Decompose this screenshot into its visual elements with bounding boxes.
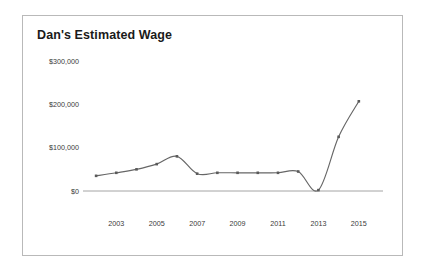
chart-card: Dan's Estimated Wage $0$100,000$200,000$… (22, 15, 403, 256)
y-tick-label: $100,000 (49, 143, 79, 152)
line-chart: $0$100,000$200,000$300,000 2003200520072… (23, 16, 404, 257)
x-tick-label: 2005 (149, 219, 165, 228)
data-point-marker (297, 170, 300, 173)
series-markers (95, 100, 360, 191)
data-point-marker (256, 172, 259, 175)
y-axis-tick-labels: $0$100,000$200,000$300,000 (49, 57, 79, 196)
y-tick-label: $0 (71, 187, 79, 196)
x-tick-label: 2007 (189, 219, 205, 228)
x-tick-label: 2015 (351, 219, 367, 228)
x-axis-tick-labels: 2003200520072009201120132015 (108, 219, 367, 228)
data-point-marker (337, 136, 340, 139)
x-tick-label: 2013 (310, 219, 326, 228)
y-tick-label: $200,000 (49, 100, 79, 109)
data-point-marker (196, 172, 199, 175)
data-point-marker (277, 172, 280, 175)
y-tick-label: $300,000 (49, 57, 79, 66)
series-line-estimated-wage (96, 101, 359, 191)
x-tick-label: 2011 (270, 219, 285, 228)
data-point-marker (135, 168, 138, 171)
data-point-marker (95, 175, 98, 178)
x-tick-label: 2009 (230, 219, 246, 228)
data-point-marker (115, 172, 118, 175)
data-point-marker (155, 163, 158, 166)
data-point-marker (236, 172, 239, 175)
data-point-marker (358, 100, 361, 103)
data-point-marker (216, 172, 219, 175)
x-tick-label: 2003 (108, 219, 124, 228)
data-point-marker (176, 155, 179, 158)
data-point-marker (317, 189, 320, 192)
